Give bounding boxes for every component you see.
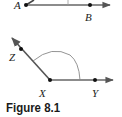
angle-zxy: [12, 38, 113, 82]
point-z: [19, 47, 23, 51]
point-b: [88, 3, 92, 7]
point-a: [24, 3, 28, 7]
label-a: A: [14, 0, 21, 11]
point-y: [93, 78, 97, 82]
angle-arc: [33, 51, 80, 80]
point-x: [48, 78, 52, 82]
label-y: Y: [92, 88, 98, 99]
angle-abc-top: [24, 0, 110, 7]
label-z: Z: [9, 52, 15, 63]
figure-caption: Figure 8.1: [6, 100, 60, 115]
label-b: B: [85, 12, 92, 23]
label-x: X: [39, 88, 46, 99]
